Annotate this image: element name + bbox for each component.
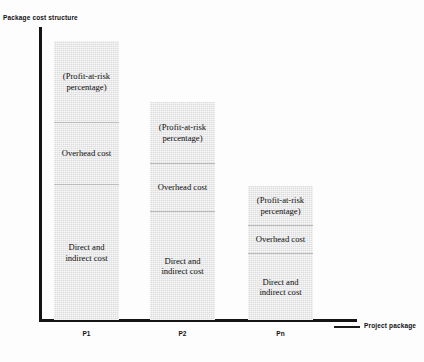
segment-pn-overhead-cost: Overhead cost: [248, 225, 313, 253]
package-cost-structure-chart: Package cost structure Project package (…: [0, 0, 424, 362]
y-axis-line: [39, 27, 42, 322]
segment-p2-profit-at-risk: (Profit-at-risk percentage): [150, 102, 215, 163]
segment-p2-direct-indirect-cost: Direct and indirect cost: [150, 211, 215, 320]
segment-label: (Profit-at-risk percentage): [56, 71, 117, 92]
y-axis-title: Package cost structure: [3, 14, 78, 21]
segment-label: Direct and indirect cost: [56, 242, 117, 263]
stacked-bar-p2: (Profit-at-risk percentage) Overhead cos…: [150, 102, 215, 320]
segment-pn-direct-indirect-cost: Direct and indirect cost: [248, 253, 313, 320]
segment-p1-overhead-cost: Overhead cost: [54, 122, 119, 184]
x-axis-title-leader-line: [334, 326, 360, 328]
segment-label: Overhead cost: [250, 234, 311, 245]
stacked-bar-pn: (Profit-at-risk percentage) Overhead cos…: [248, 186, 313, 320]
x-tick-label-pn: Pn: [248, 330, 313, 337]
segment-label: (Profit-at-risk percentage): [152, 122, 213, 143]
segment-label: Overhead cost: [152, 182, 213, 193]
stacked-bar-p1: (Profit-at-risk percentage) Overhead cos…: [54, 41, 119, 320]
segment-p2-overhead-cost: Overhead cost: [150, 163, 215, 211]
segment-label: Overhead cost: [56, 148, 117, 159]
x-tick-label-p1: P1: [54, 330, 119, 337]
x-axis-title: Project package: [364, 322, 416, 329]
segment-p1-direct-indirect-cost: Direct and indirect cost: [54, 184, 119, 320]
segment-label: Direct and indirect cost: [250, 277, 311, 298]
segment-label: (Profit-at-risk percentage): [250, 195, 311, 216]
segment-p1-profit-at-risk: (Profit-at-risk percentage): [54, 41, 119, 122]
segment-label: Direct and indirect cost: [152, 256, 213, 277]
segment-pn-profit-at-risk: (Profit-at-risk percentage): [248, 186, 313, 225]
x-tick-label-p2: P2: [150, 330, 215, 337]
